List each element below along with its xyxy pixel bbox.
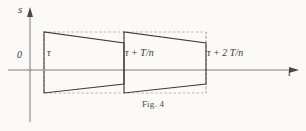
s-axis-arrowhead [27, 7, 33, 17]
waveform-lower-period-2 [124, 70, 206, 93]
figure-plot [0, 0, 306, 131]
t-axis-label: t [288, 67, 291, 78]
figure-caption: Fig. 4 [0, 99, 306, 109]
tick-label-tau-plus-T-over-n: τ + T/n [125, 48, 154, 58]
waveform-upper-period-1 [44, 32, 124, 70]
origin-label: 0 [17, 50, 22, 60]
waveform-lower-period-1 [44, 70, 124, 93]
tick-label-tau-plus-2T-over-n: τ + 2 T/n [207, 48, 243, 58]
s-axis-label: s [18, 4, 22, 15]
figure-container: s t 0 τ τ + T/n τ + 2 T/n Fig. 4 [0, 0, 306, 131]
dashed-bounding-box [44, 32, 206, 93]
tick-label-tau: τ [47, 48, 51, 58]
tick-marker-tau [43, 69, 45, 71]
origin-point [29, 69, 31, 71]
